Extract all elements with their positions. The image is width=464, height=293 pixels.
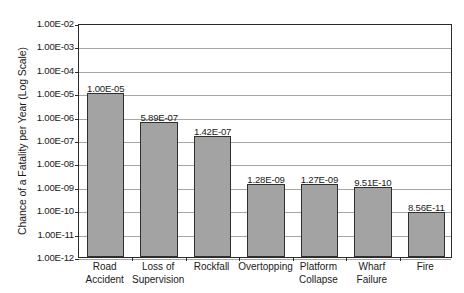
x-axis-category-label: Fire [399, 261, 452, 274]
x-axis-category-label: Loss ofSupervision [131, 261, 184, 286]
y-axis-tick-label: 1.00E-04 [26, 66, 74, 76]
bar [194, 136, 231, 257]
bar [247, 184, 284, 257]
bar-value-label: 1.00E-05 [79, 83, 132, 94]
y-axis-tickmark [75, 259, 79, 260]
bar-value-label: 1.42E-07 [186, 126, 239, 137]
y-axis-tickmark [75, 25, 79, 26]
y-axis-tick-label: 1.00E-08 [26, 159, 74, 169]
gridline [79, 72, 451, 73]
y-axis-tick-labels: 1.00E-021.00E-031.00E-041.00E-051.00E-06… [26, 24, 74, 258]
y-axis-tickmark [75, 119, 79, 120]
gridline [79, 142, 451, 143]
y-axis-tick-label: 1.00E-09 [26, 183, 74, 193]
gridline [79, 48, 451, 49]
y-axis-tickmark [75, 72, 79, 73]
x-axis-category-label: Overtopping [238, 261, 291, 274]
gridline [79, 165, 451, 166]
bar-value-label: 1.28E-09 [239, 174, 292, 185]
y-axis-tickmark [75, 236, 79, 237]
x-axis-category-label: Rockfall [185, 261, 238, 274]
y-axis-tick-label: 1.00E-06 [26, 113, 74, 123]
bar-value-label: 8.56E-11 [400, 202, 453, 213]
bar [87, 93, 124, 257]
x-axis-category-label: PlatformCollapse [292, 261, 345, 286]
y-axis-tickmark [75, 95, 79, 96]
bar [301, 184, 338, 257]
bar-value-label: 1.27E-09 [293, 174, 346, 185]
y-axis-tick-label: 1.00E-10 [26, 206, 74, 216]
chart-container: Chance of a Fatality per Year (Log Scale… [0, 0, 464, 293]
y-axis-tick-label: 1.00E-03 [26, 42, 74, 52]
y-axis-tick-label: 1.00E-07 [26, 136, 74, 146]
gridline [79, 259, 451, 260]
x-axis-category-label: RoadAccident [78, 261, 131, 286]
y-axis-tickmark [75, 212, 79, 213]
y-axis-tickmark [75, 165, 79, 166]
y-axis-tick-label: 1.00E-05 [26, 89, 74, 99]
y-axis-tickmark [75, 142, 79, 143]
bar [140, 122, 177, 257]
plot-area: 1.00E-055.89E-071.42E-071.28E-091.27E-09… [78, 24, 452, 258]
x-axis-category-labels: RoadAccidentLoss ofSupervisionRockfallOv… [78, 261, 452, 293]
y-axis-tick-label: 1.00E-12 [26, 253, 74, 263]
x-axis-category-label: WharfFailure [345, 261, 398, 286]
y-axis-tick-label: 1.00E-02 [26, 19, 74, 29]
bar-value-label: 5.89E-07 [132, 112, 185, 123]
gridline [79, 95, 451, 96]
y-axis-tickmark [75, 48, 79, 49]
bar [354, 187, 391, 257]
y-axis-tick-label: 1.00E-11 [26, 230, 74, 240]
bar [408, 212, 445, 257]
bar-value-label: 9.51E-10 [346, 177, 399, 188]
y-axis-tickmark [75, 189, 79, 190]
